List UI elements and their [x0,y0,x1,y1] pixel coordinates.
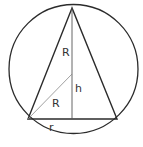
isosceles-triangle [28,8,117,119]
label-height: h [75,82,82,95]
circumscribed-circle [9,5,138,134]
radius-line [28,74,72,119]
label-base-half: r [49,121,54,134]
inscribed-triangle-diagram: R h R r [0,0,143,147]
label-lower-radius: R [52,97,60,110]
label-upper-radius: R [62,46,70,59]
